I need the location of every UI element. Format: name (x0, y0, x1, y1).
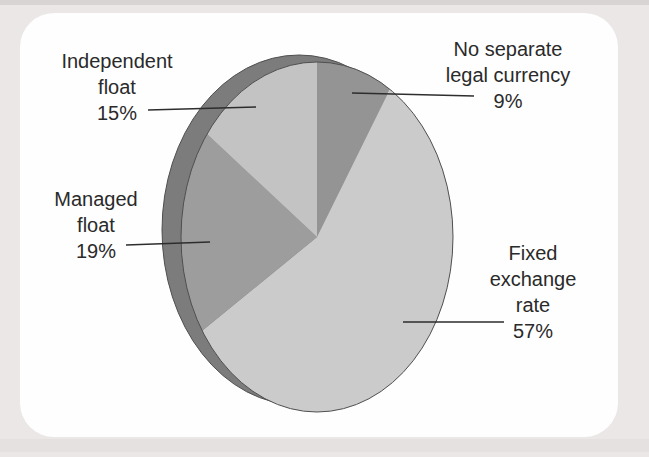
pie-label-line: Managed (54, 186, 137, 212)
pie-label-line: No separate (446, 36, 571, 62)
pie-label-line: float (61, 74, 172, 100)
pie-label-line: exchange (490, 266, 577, 292)
pie-label-line: float (54, 212, 137, 238)
figure-page: No separate legal currency 9% Fixed exch… (0, 0, 649, 457)
pie-label-value: 19% (54, 238, 137, 264)
pie-label-line: Independent (61, 48, 172, 74)
pie-label-independent-float: Independent float 15% (61, 48, 172, 126)
pie-label-line: rate (490, 292, 577, 318)
pie-label-value: 15% (61, 100, 172, 126)
pie-label-value: 57% (490, 318, 577, 344)
pie-label-value: 9% (446, 88, 571, 114)
pie-label-line: Fixed (490, 240, 577, 266)
pie-label-no-separate-legal-currency: No separate legal currency 9% (446, 36, 571, 114)
pie-label-fixed-exchange-rate: Fixed exchange rate 57% (490, 240, 577, 344)
pie-label-managed-float: Managed float 19% (54, 186, 137, 264)
pie-label-line: legal currency (446, 62, 571, 88)
